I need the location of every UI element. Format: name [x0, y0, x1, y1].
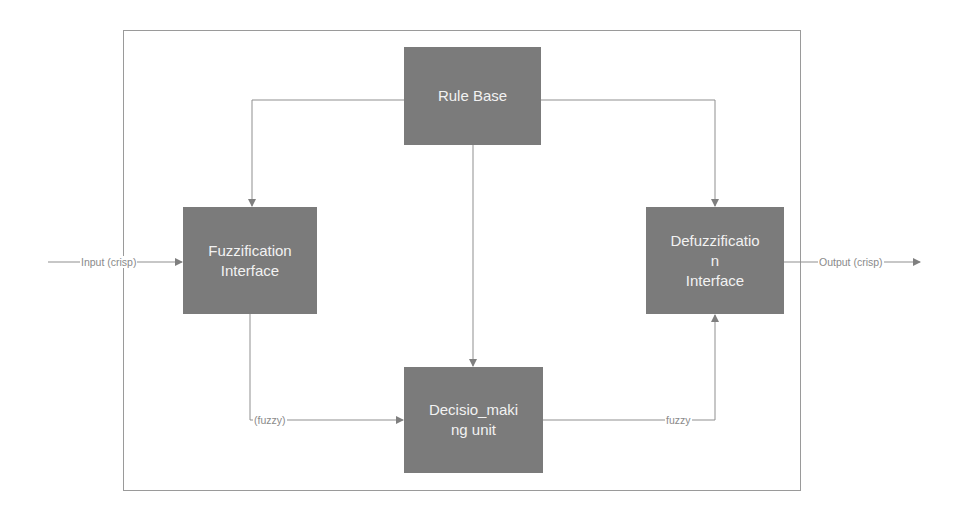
- fuzzification-label-line1: Fuzzification: [208, 241, 291, 261]
- rule-base-block: Rule Base: [404, 47, 541, 145]
- defuzzification-label-line1: Defuzzificatio: [670, 231, 759, 251]
- fuzzification-label-line2: Interface: [208, 261, 291, 281]
- input-crisp-label: Input (crisp): [80, 256, 137, 268]
- fuzzification-to-decision-arrow: [250, 314, 403, 420]
- output-crisp-label: Output (crisp): [818, 256, 884, 268]
- decision-making-unit-block: Decisio_maki ng unit: [404, 367, 543, 473]
- rule-base-label: Rule Base: [438, 86, 507, 106]
- defuzzification-interface-block: Defuzzificatio n Interface: [646, 207, 784, 314]
- fuzzy-controller-diagram: Rule Base Fuzzification Interface Defuzz…: [0, 0, 966, 514]
- decision-label-line1: Decisio_maki: [429, 400, 518, 420]
- fuzzy-output-label: fuzzy: [665, 414, 692, 426]
- decision-label-line2: ng unit: [429, 420, 518, 440]
- defuzzification-label-line3: Interface: [670, 271, 759, 291]
- decision-to-defuzzification-arrow: [543, 315, 715, 420]
- fuzzy-input-label: (fuzzy): [253, 414, 287, 426]
- defuzzification-label-line2: n: [670, 251, 759, 271]
- rulebase-to-fuzzification-arrow: [252, 100, 404, 206]
- rulebase-to-defuzzification-arrow: [541, 100, 715, 206]
- fuzzification-interface-block: Fuzzification Interface: [183, 207, 317, 314]
